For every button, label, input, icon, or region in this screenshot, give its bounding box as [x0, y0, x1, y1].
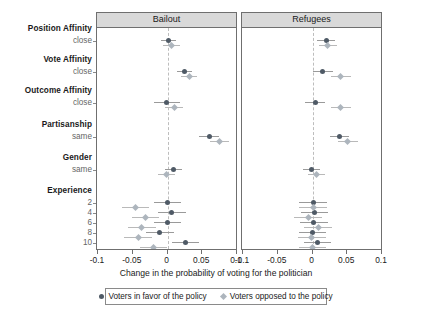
point-estimate-opposed: [135, 233, 142, 240]
point-estimate-favor: [169, 210, 174, 215]
point-estimate-opposed: [163, 170, 170, 177]
point-estimate-opposed: [185, 72, 192, 79]
point-estimate-favor: [320, 69, 325, 74]
x-axis-tick: [277, 250, 278, 254]
panel-bailout: Bailout: [96, 12, 237, 250]
x-axis-tick-label: -0.05: [122, 255, 141, 265]
legend-label-favor: Voters in favor of the policy: [108, 292, 206, 301]
point-estimate-favor: [311, 220, 316, 225]
x-axis-refugees: -0.1-0.0500.050.1: [241, 250, 382, 270]
point-estimate-opposed: [308, 233, 315, 240]
group-label-outcome-affinity: Outcome Affinity: [25, 86, 92, 95]
point-estimate-favor: [171, 167, 176, 172]
point-estimate-favor: [309, 167, 314, 172]
point-estimate-favor: [165, 220, 170, 225]
panel-refugees: Refugees: [241, 12, 382, 250]
point-estimate-favor: [183, 240, 188, 245]
point-estimate-opposed: [168, 41, 175, 48]
point-estimate-opposed: [138, 223, 145, 230]
x-axis-tick: [381, 250, 382, 254]
coefficient-plot-figure: Position AffinitycloseVote Affinityclose…: [0, 0, 432, 322]
x-axis-tick: [201, 250, 202, 254]
point-estimate-opposed: [142, 213, 149, 220]
group-label-gender: Gender: [63, 153, 92, 162]
x-axis-tick-label: -0.1: [235, 255, 249, 265]
legend-item-favor: Voters in favor of the policy: [99, 292, 206, 301]
row-sublabel-experience-8: 8: [87, 228, 92, 237]
point-estimate-favor: [315, 240, 320, 245]
x-axis-tick: [236, 250, 237, 254]
point-estimate-favor: [165, 200, 170, 205]
row-label-column: Position AffinitycloseVote Affinityclose…: [0, 0, 96, 262]
x-axis-tick-label: -0.05: [267, 255, 286, 265]
point-estimate-opposed: [344, 137, 351, 144]
row-sublabel-experience-10: 10: [83, 238, 92, 247]
group-label-partisanship: Partisanship: [42, 120, 92, 129]
x-axis-tick-label: 0: [309, 255, 314, 265]
plot-area-refugees: [242, 28, 381, 249]
point-estimate-opposed: [337, 72, 344, 79]
group-label-position-affinity: Position Affinity: [28, 24, 92, 33]
point-estimate-opposed: [313, 170, 320, 177]
point-estimate-favor: [164, 100, 169, 105]
row-sublabel-experience-4: 4: [87, 208, 92, 217]
x-axis-tick: [346, 250, 347, 254]
legend: Voters in favor of the policy Voters opp…: [105, 288, 327, 305]
x-axis-bailout: -0.1-0.0500.050.1: [96, 250, 237, 270]
point-estimate-favor: [337, 134, 342, 139]
group-label-experience: Experience: [47, 186, 92, 195]
legend-item-opposed: Voters opposed to the policy: [221, 292, 333, 301]
point-estimate-opposed: [132, 203, 139, 210]
x-axis-title: Change in the probability of voting for …: [0, 268, 432, 278]
x-axis-tick: [312, 250, 313, 254]
x-axis-tick-label: 0.05: [338, 255, 354, 265]
x-axis-tick-label: 0.05: [193, 255, 209, 265]
panel-header-strip-refugees: Refugees: [242, 13, 381, 28]
row-sublabel-experience-2: 2: [87, 198, 92, 207]
point-estimate-opposed: [337, 103, 344, 110]
point-estimate-opposed: [171, 103, 178, 110]
point-estimate-favor: [182, 69, 187, 74]
row-sublabel-position-affinity-close: close: [73, 36, 92, 45]
row-sublabel-outcome-affinity-close: close: [73, 98, 92, 107]
x-axis-tick: [167, 250, 168, 254]
point-estimate-favor: [157, 230, 162, 235]
legend-circle-marker-icon: [99, 294, 104, 299]
zero-reference-line: [168, 28, 169, 249]
zero-reference-line: [313, 28, 314, 249]
plot-area-bailout: [97, 28, 236, 249]
x-axis-tick-label: 0.1: [375, 255, 387, 265]
group-label-vote-affinity: Vote Affinity: [43, 55, 92, 64]
x-axis-tick: [132, 250, 133, 254]
panel-title-bailout: Bailout: [97, 14, 236, 24]
row-sublabel-partisanship-same: same: [72, 132, 92, 141]
x-axis-tick: [242, 250, 243, 254]
point-estimate-favor: [313, 100, 318, 105]
row-sublabel-gender-same: same: [72, 165, 92, 174]
row-sublabel-experience-6: 6: [87, 218, 92, 227]
legend-label-opposed: Voters opposed to the policy: [230, 292, 333, 301]
point-estimate-favor: [207, 134, 212, 139]
panel-header-strip-bailout: Bailout: [97, 13, 236, 28]
point-estimate-opposed: [305, 213, 312, 220]
point-estimate-opposed: [324, 41, 331, 48]
x-axis-tick: [97, 250, 98, 254]
panel-title-refugees: Refugees: [242, 14, 381, 24]
legend-diamond-marker-icon: [220, 293, 227, 300]
point-estimate-opposed: [216, 137, 223, 144]
x-axis-tick-label: 0: [164, 255, 169, 265]
point-estimate-opposed: [150, 243, 157, 249]
point-estimate-opposed: [315, 223, 322, 230]
x-axis-tick-label: -0.1: [90, 255, 104, 265]
row-sublabel-vote-affinity-close: close: [73, 67, 92, 76]
